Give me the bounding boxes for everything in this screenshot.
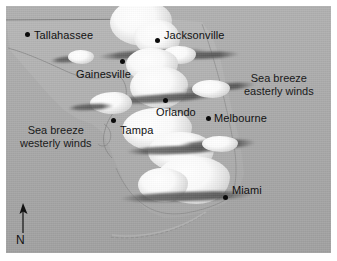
satellite-figure: Tallahassee Jacksonville Gainesville Orl… [0, 0, 337, 261]
city-label-tampa: Tampa [120, 124, 154, 136]
annotation-easterly-line1: Sea breeze [244, 72, 314, 85]
city-label-miami: Miami [232, 184, 262, 196]
city-label-melbourne: Melbourne [214, 112, 267, 124]
city-label-gainesville: Gainesville [76, 68, 131, 80]
annotation-sea-breeze-easterly: Sea breeze easterly winds [244, 72, 314, 98]
city-label-orlando: Orlando [156, 106, 196, 118]
north-arrow-icon [14, 201, 40, 235]
annotation-sea-breeze-westerly: Sea breeze westerly winds [20, 124, 92, 150]
city-label-jacksonville: Jacksonville [164, 29, 225, 41]
annotation-westerly-line1: Sea breeze [20, 124, 92, 137]
north-arrow-compass: N [14, 201, 40, 247]
city-marker-miami [223, 195, 228, 200]
annotation-westerly-line2: westerly winds [20, 137, 92, 150]
city-marker-melbourne [206, 116, 211, 121]
city-marker-tampa [111, 118, 116, 123]
city-marker-tallahassee [25, 32, 30, 37]
annotation-easterly-line2: easterly winds [244, 85, 314, 98]
city-marker-jacksonville [155, 38, 160, 43]
satellite-map-image: Tallahassee Jacksonville Gainesville Orl… [6, 6, 331, 253]
city-label-tallahassee: Tallahassee [34, 29, 93, 41]
city-marker-gainesville [120, 59, 125, 64]
north-label: N [16, 233, 25, 247]
city-marker-orlando [163, 98, 168, 103]
